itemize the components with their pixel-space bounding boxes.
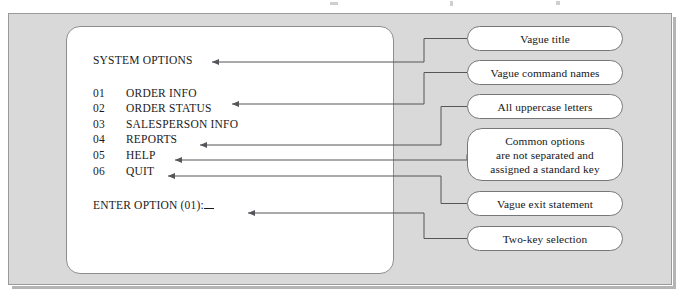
screen-text-block: SYSTEM OPTIONS 01 ORDER INFO 02 ORDER ST… (93, 53, 383, 214)
option-code: 05 (93, 148, 126, 164)
option-label: SALESPERSON INFO (126, 117, 383, 133)
option-label: ORDER INFO (126, 86, 383, 102)
callout-text: All uppercase letters (498, 100, 593, 114)
figure-root: SYSTEM OPTIONS 01 ORDER INFO 02 ORDER ST… (0, 0, 689, 304)
option-label: QUIT (126, 164, 383, 180)
menu-option-row[interactable]: 04 REPORTS (93, 132, 383, 148)
menu-option-row[interactable]: 01 ORDER INFO (93, 86, 383, 102)
text-cursor (204, 208, 214, 209)
callout-two-key-selection: Two-key selection (467, 226, 623, 251)
terminal-screen: SYSTEM OPTIONS 01 ORDER INFO 02 ORDER ST… (66, 26, 394, 274)
callout-all-uppercase: All uppercase letters (467, 94, 623, 119)
option-code: 03 (93, 117, 126, 133)
option-code: 01 (93, 86, 126, 102)
frame-shadow-right (673, 17, 676, 289)
callout-text: Two-key selection (503, 232, 588, 246)
callout-vague-commands: Vague command names (467, 60, 623, 85)
callout-line-2: are not separated and (496, 149, 594, 161)
menu-option-row[interactable]: 03 SALESPERSON INFO (93, 117, 383, 133)
menu-option-row[interactable]: 06 QUIT (93, 164, 383, 180)
callout-vague-exit: Vague exit statement (467, 191, 623, 216)
callout-text: Vague title (520, 32, 570, 46)
menu-option-row[interactable]: 02 ORDER STATUS (93, 101, 383, 117)
callout-common-options: Common options are not separated and ass… (467, 128, 623, 181)
option-code: 02 (93, 101, 126, 117)
option-label: HELP (126, 148, 383, 164)
option-code: 06 (93, 164, 126, 180)
page-bleed-artifacts (0, 0, 689, 11)
option-label: REPORTS (126, 132, 383, 148)
callout-text: Vague exit statement (497, 197, 593, 211)
prompt-label: ENTER OPTION (01): (93, 199, 204, 211)
option-label: ORDER STATUS (126, 101, 383, 117)
option-prompt[interactable]: ENTER OPTION (01): (93, 198, 383, 214)
frame-shadow-bottom (12, 286, 676, 289)
callout-vague-title: Vague title (467, 26, 623, 51)
menu-option-row[interactable]: 05 HELP (93, 148, 383, 164)
screen-title: SYSTEM OPTIONS (93, 53, 383, 69)
callout-line-3: assigned a standard key (490, 163, 599, 175)
callout-line-1: Common options (505, 135, 585, 147)
callout-text: Vague command names (490, 66, 599, 80)
option-code: 04 (93, 132, 126, 148)
callout-text-multiline: Common options are not separated and ass… (490, 134, 599, 176)
